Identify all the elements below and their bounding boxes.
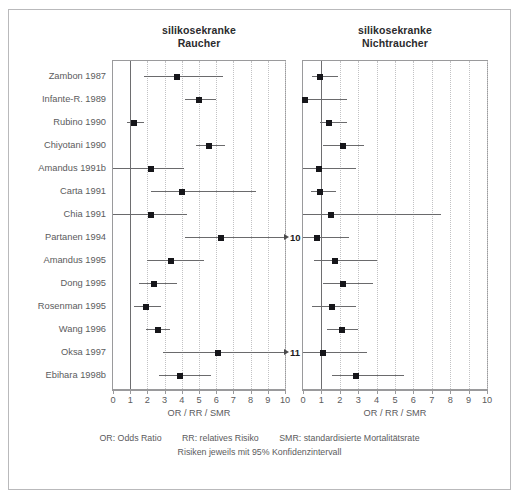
estimate-marker: [340, 143, 346, 149]
confidence-interval-line: [185, 237, 285, 238]
forest-row: [113, 89, 285, 111]
study-label: Chia 1991: [18, 209, 106, 219]
axis-tick-label: 8: [440, 395, 460, 406]
study-label: Amandus 1995: [18, 255, 106, 265]
axis-tick: [377, 390, 378, 394]
forest-row: [113, 365, 285, 387]
axis-tick-label: 9: [459, 395, 479, 406]
confidence-interval-line: [139, 283, 177, 284]
figure-footer: OR: Odds Ratio RR: relatives Risiko SMR:…: [8, 432, 511, 459]
study-label: Oksa 1997: [18, 347, 106, 357]
axis-tick: [432, 390, 433, 394]
estimate-marker: [148, 166, 154, 172]
plot-panel-raucher: 1011: [112, 60, 286, 390]
ci-overflow-value: 11: [290, 347, 300, 359]
forest-row: 10: [113, 227, 285, 249]
estimate-marker: [326, 120, 332, 126]
axis-tick: [487, 390, 488, 394]
forest-row: [303, 365, 487, 387]
forest-row: [303, 250, 487, 272]
footer-note: Risiken jeweils mit 95% Konfidenzinterva…: [8, 446, 511, 459]
panel-title-right-line1: silikosekranke: [358, 24, 432, 36]
study-label: Infante-R. 1989: [18, 94, 106, 104]
study-label: Carta 1991: [18, 186, 106, 196]
forest-row: [303, 273, 487, 295]
estimate-marker: [320, 350, 326, 356]
estimate-marker: [174, 74, 180, 80]
axis-tick: [303, 390, 304, 394]
confidence-interval-line: [159, 375, 211, 376]
forest-row: [303, 135, 487, 157]
forest-row: [113, 250, 285, 272]
forest-row: [303, 112, 487, 134]
axis-tick: [233, 390, 234, 394]
forest-row: [303, 204, 487, 226]
estimate-marker: [148, 212, 154, 218]
x-axis-nichtraucher: OR / RR / SMR 012345678910: [302, 390, 488, 416]
footer-abbr-rr: RR: relatives Risiko: [182, 433, 259, 443]
axis-tick-label: 10: [275, 395, 295, 406]
confidence-interval-line: [303, 352, 367, 353]
confidence-interval-line: [144, 76, 223, 77]
estimate-marker: [177, 373, 183, 379]
ci-overflow-arrow-icon: [284, 234, 289, 240]
ci-overflow-value: 10: [290, 232, 301, 244]
axis-caption-right: OR / RR / SMR: [302, 408, 488, 419]
confidence-interval-line: [303, 99, 347, 100]
axis-caption-left: OR / RR / SMR: [112, 408, 286, 419]
axis-tick-label: 4: [367, 395, 387, 406]
axis-tick: [358, 390, 359, 394]
estimate-marker: [316, 166, 322, 172]
confidence-interval-line: [303, 237, 349, 238]
x-axis-raucher: OR / RR / SMR 012345678910: [112, 390, 286, 416]
panel-title-left: silikosekranke Raucher: [112, 24, 286, 49]
estimate-marker: [215, 350, 221, 356]
axis-tick: [268, 390, 269, 394]
axis-tick: [113, 390, 114, 394]
study-label: Rubino 1990: [18, 117, 106, 127]
axis-tick-label: 5: [385, 395, 405, 406]
gridline: [285, 61, 287, 389]
study-label: Zambon 1987: [18, 71, 106, 81]
confidence-interval-line: [147, 260, 204, 261]
axis-tick: [413, 390, 414, 394]
forest-row: [303, 296, 487, 318]
forest-row: [113, 112, 285, 134]
confidence-interval-line: [320, 122, 347, 123]
forest-row: [113, 66, 285, 88]
footer-abbr-smr: SMR: standardisierte Mortalitätsrate: [279, 433, 419, 443]
estimate-marker: [332, 258, 338, 264]
forest-row: [303, 181, 487, 203]
forest-row: [303, 89, 487, 111]
axis-tick: [147, 390, 148, 394]
estimate-marker: [206, 143, 212, 149]
confidence-interval-line: [151, 191, 256, 192]
estimate-marker: [179, 189, 185, 195]
study-label: Partanen 1994: [18, 232, 106, 242]
plot-panel-nichtraucher: [302, 60, 488, 390]
panel-title-right: silikosekranke Nichtraucher: [302, 24, 488, 49]
footer-abbr-or: OR: Odds Ratio: [99, 433, 161, 443]
confidence-interval-line: [312, 76, 338, 77]
axis-tick-label: 2: [330, 395, 350, 406]
ci-overflow-arrow-icon: [284, 349, 289, 355]
estimate-marker: [317, 189, 323, 195]
forest-row: [113, 204, 285, 226]
axis-tick: [285, 390, 286, 394]
estimate-marker: [314, 235, 320, 241]
axis-tick: [251, 390, 252, 394]
study-label: Dong 1995: [18, 278, 106, 288]
axis-tick: [199, 390, 200, 394]
estimate-marker: [329, 304, 335, 310]
estimate-marker: [151, 281, 157, 287]
estimate-marker: [196, 97, 202, 103]
axis-tick: [182, 390, 183, 394]
estimate-marker: [353, 373, 359, 379]
forest-row: [113, 273, 285, 295]
axis-tick-label: 6: [403, 395, 423, 406]
panel-title-left-line1: silikosekranke: [162, 24, 236, 36]
forest-row: [303, 342, 487, 364]
forest-row: [113, 319, 285, 341]
axis-tick-label: 10: [477, 395, 497, 406]
estimate-marker: [155, 327, 161, 333]
